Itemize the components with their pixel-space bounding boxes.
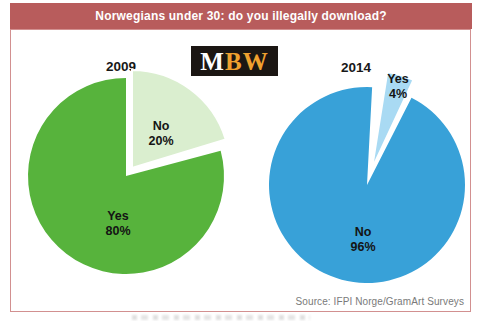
slice-name: Yes xyxy=(387,72,409,87)
chart-figure: Norwegians under 30: do you illegally do… xyxy=(0,0,483,321)
slice-percent: 96% xyxy=(350,240,375,255)
slice-name: No xyxy=(350,225,375,240)
slice-name: No xyxy=(148,119,173,134)
pie-2009-yes-label: Yes 80% xyxy=(105,209,130,239)
cropped-caption-remnant xyxy=(132,315,310,320)
pie-2009-no-label: No 20% xyxy=(148,119,173,149)
source-note: Source: IFPI Norge/GramArt Surveys xyxy=(296,296,464,307)
pie-2014-yes-label: Yes 4% xyxy=(387,72,409,102)
slice-percent: 80% xyxy=(105,224,130,239)
chart-title-bar: Norwegians under 30: do you illegally do… xyxy=(10,3,472,29)
chart-title: Norwegians under 30: do you illegally do… xyxy=(95,9,386,23)
pie-2014-no-label: No 96% xyxy=(350,225,375,255)
slice-percent: 20% xyxy=(148,134,173,149)
slice-name: Yes xyxy=(105,209,130,224)
slice-percent: 4% xyxy=(387,87,409,102)
chart-panel: MBW 2009 2014 No 20% Yes 80% Yes 4% No 9… xyxy=(10,29,471,312)
